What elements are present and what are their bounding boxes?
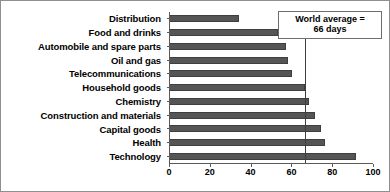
bar-chart-figure: Distribution Food and drinks Automobile … <box>0 0 390 192</box>
annotation-line-2: 66 days <box>281 24 379 34</box>
value-tick-label: 80 <box>327 168 337 177</box>
category-tick <box>167 18 170 19</box>
bar <box>170 57 288 64</box>
value-tick-label: 40 <box>246 168 256 177</box>
bar <box>170 43 286 50</box>
bar <box>170 125 321 132</box>
bar-row <box>170 94 373 108</box>
bar <box>170 70 292 77</box>
category-tick <box>167 128 170 129</box>
bar <box>170 112 315 119</box>
category-label: Distribution <box>1 12 165 26</box>
category-label: Capital goods <box>1 123 165 137</box>
bar <box>170 84 305 91</box>
bar <box>170 139 325 146</box>
bar-row <box>170 108 373 122</box>
annotation-line-1: World average = <box>281 14 379 24</box>
category-tick <box>167 60 170 61</box>
category-label: Construction and materials <box>1 109 165 123</box>
category-label: Automobile and spare parts <box>1 40 165 54</box>
bar <box>170 29 278 36</box>
bar-row <box>170 81 373 95</box>
value-tick-label: 0 <box>166 168 171 177</box>
category-label: Telecommunications <box>1 67 165 81</box>
category-label: Chemistry <box>1 95 165 109</box>
bar-row <box>170 67 373 81</box>
category-label: Health <box>1 136 165 150</box>
bar-row <box>170 53 373 67</box>
bar-row <box>170 149 373 163</box>
value-tick-label: 20 <box>205 168 215 177</box>
bar-row <box>170 39 373 53</box>
category-tick <box>167 46 170 47</box>
bar <box>170 153 356 160</box>
category-label: Food and drinks <box>1 26 165 40</box>
bar-row <box>170 122 373 136</box>
value-tick-label: 60 <box>286 168 296 177</box>
value-tick-label: 100 <box>365 168 380 177</box>
value-axis: 0 20 40 60 80 100 <box>169 164 373 188</box>
bar-row <box>170 136 373 150</box>
bar <box>170 15 239 22</box>
category-tick <box>167 115 170 116</box>
category-tick <box>167 101 170 102</box>
category-axis-labels: Distribution Food and drinks Automobile … <box>1 12 165 164</box>
category-tick <box>167 73 170 74</box>
category-tick <box>167 87 170 88</box>
category-tick <box>167 156 170 157</box>
category-tick <box>167 32 170 33</box>
category-label: Household goods <box>1 81 165 95</box>
category-tick <box>167 142 170 143</box>
category-label: Oil and gas <box>1 53 165 67</box>
bar <box>170 98 309 105</box>
category-label: Technology <box>1 150 165 164</box>
world-average-annotation: World average = 66 days <box>278 11 382 39</box>
